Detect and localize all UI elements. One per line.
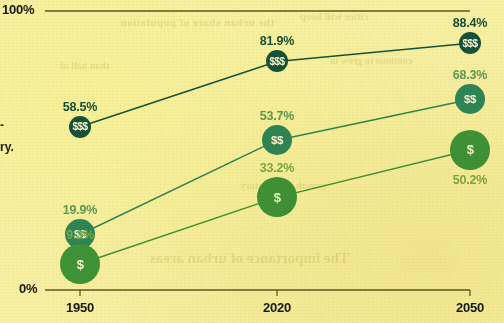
data-point-value-1950-3: 58.5% [63,100,97,114]
data-point-marker-1-2050: $ [450,130,490,170]
data-point-marker-1-2020: $ [257,177,297,217]
data-point-value-2050-1: 50.2% [453,173,487,187]
x-axis-tick-label-2050: 2050 [456,300,484,315]
data-point-value-2050-2: 68.3% [453,68,487,82]
y-axis-max-label: 100% [2,2,34,17]
data-point-marker-2-2050: $$ [455,84,485,114]
x-axis-tick-label-1950: 1950 [66,300,94,315]
data-point-marker-3-2020: $$$ [266,50,288,72]
y-axis-min-label: 0% [19,281,37,296]
data-point-value-2050-3: 88.4% [453,16,487,30]
data-point-value-1950-1: 9.3% [66,228,94,242]
data-point-value-2020-1: 33.2% [260,161,294,175]
data-point-marker-3-2050: $$$ [459,32,481,54]
chart-root: The importance of urban areas the urban … [0,0,504,323]
x-axis-tick-label-2020: 2020 [263,300,291,315]
data-point-value-1950-2: 19.9% [63,203,97,217]
data-point-marker-2-2020: $$ [262,125,292,155]
data-point-value-2020-2: 53.7% [260,109,294,123]
data-point-value-2020-3: 81.9% [260,34,294,48]
data-point-marker-3-1950: $$$ [69,116,91,138]
data-point-marker-1-1950: $ [60,244,100,284]
